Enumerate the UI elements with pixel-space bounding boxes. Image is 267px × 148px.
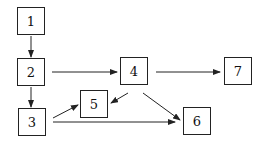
node-6: 6 bbox=[183, 107, 211, 135]
node-1-label: 1 bbox=[27, 14, 35, 29]
node-7: 7 bbox=[224, 57, 252, 85]
node-2-label: 2 bbox=[27, 65, 35, 80]
node-6-label: 6 bbox=[193, 114, 201, 129]
edge-4-6 bbox=[143, 93, 180, 120]
node-3: 3 bbox=[18, 108, 46, 136]
node-1: 1 bbox=[17, 7, 45, 35]
node-4-label: 4 bbox=[130, 64, 138, 79]
node-7-label: 7 bbox=[234, 64, 242, 79]
node-3-label: 3 bbox=[28, 115, 36, 130]
node-5: 5 bbox=[80, 90, 108, 118]
edge-3-5 bbox=[53, 105, 78, 118]
node-5-label: 5 bbox=[90, 97, 98, 112]
edge-4-5 bbox=[111, 93, 128, 103]
node-4: 4 bbox=[120, 57, 148, 85]
node-2: 2 bbox=[17, 58, 45, 86]
